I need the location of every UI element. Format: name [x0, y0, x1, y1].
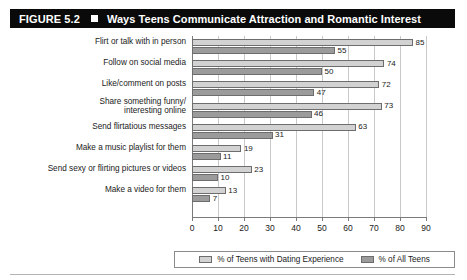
legend-item-all-teens: % of All Teens — [361, 255, 430, 264]
bar-value-label: 74 — [387, 60, 396, 68]
bar-row: Follow on social media7450 — [0, 58, 467, 79]
bar — [192, 153, 221, 160]
bar-chart: Flirt or talk with in person8555Follow o… — [0, 36, 467, 236]
legend-swatch-icon — [199, 256, 212, 263]
x-axis-tick — [192, 217, 193, 221]
category-label: Like/comment on posts — [6, 79, 186, 88]
x-axis-tick-label: 40 — [291, 223, 300, 233]
x-axis-tick — [244, 217, 245, 221]
x-axis-tick — [218, 217, 219, 221]
bar — [192, 174, 218, 181]
category-label: Send flirtatious messages — [6, 122, 186, 131]
bar-value-label: 73 — [384, 102, 393, 110]
x-axis-tick — [270, 217, 271, 221]
figure-title: Ways Teens Communicate Attraction and Ro… — [107, 13, 421, 25]
x-axis-tick — [426, 217, 427, 221]
x-axis-tick — [348, 217, 349, 221]
bar — [192, 145, 241, 152]
bar — [192, 89, 314, 96]
bar-row: Share something funny/ interesting onlin… — [0, 101, 467, 122]
legend-swatch-icon — [361, 256, 374, 263]
x-axis-tick-label: 30 — [265, 223, 274, 233]
filled-square-icon — [91, 15, 98, 22]
bar-row: Send sexy or flirting pictures or videos… — [0, 164, 467, 185]
bar-row: Make a music playlist for them1911 — [0, 143, 467, 164]
category-label: Make a video for them — [6, 185, 186, 194]
category-label: Follow on social media — [6, 58, 186, 67]
x-axis-tick — [374, 217, 375, 221]
bar-value-label: 19 — [244, 145, 253, 153]
bar — [192, 60, 384, 67]
bar-value-label: 72 — [382, 81, 391, 89]
category-label: Send sexy or flirting pictures or videos — [6, 164, 186, 173]
x-axis-tick-label: 60 — [343, 223, 352, 233]
x-axis-line — [192, 217, 426, 218]
bar — [192, 68, 322, 75]
x-axis-tick-label: 20 — [239, 223, 248, 233]
x-axis-tick-label: 50 — [317, 223, 326, 233]
bar — [192, 47, 335, 54]
figure-header-bar: FIGURE 5.2 Ways Teens Communicate Attrac… — [10, 9, 455, 28]
bar — [192, 187, 226, 194]
bar-row: Send flirtatious messages6331 — [0, 122, 467, 143]
bottom-rule — [10, 274, 455, 275]
category-label: Share something funny/ interesting onlin… — [6, 97, 186, 116]
category-label: Flirt or talk with in person — [6, 37, 186, 46]
x-axis-tick-label: 80 — [395, 223, 404, 233]
category-label: Make a music playlist for them — [6, 143, 186, 152]
bar — [192, 111, 312, 118]
chart-legend: % of Teens with Dating Experience % of A… — [174, 251, 455, 268]
figure-number: FIGURE 5.2 — [19, 13, 80, 25]
legend-item-dating-experience: % of Teens with Dating Experience — [199, 255, 343, 264]
bar-value-label: 47 — [317, 89, 326, 97]
bar — [192, 81, 379, 88]
bar-value-label: 13 — [228, 187, 237, 195]
bar-value-label: 50 — [325, 68, 334, 76]
bar-value-label: 10 — [221, 174, 230, 182]
x-axis-tick-label: 90 — [421, 223, 430, 233]
x-axis-tick-label: 10 — [213, 223, 222, 233]
bar-value-label: 23 — [254, 166, 263, 174]
x-axis-tick — [322, 217, 323, 221]
bar-row: Make a video for them137 — [0, 185, 467, 206]
bar-value-label: 85 — [416, 39, 425, 47]
bar-value-label: 11 — [223, 153, 231, 161]
bar-row: Flirt or talk with in person8555 — [0, 37, 467, 58]
legend-label: % of Teens with Dating Experience — [217, 255, 343, 264]
bar-value-label: 55 — [338, 47, 347, 55]
bar — [192, 195, 210, 202]
bar — [192, 124, 356, 131]
x-axis-tick — [296, 217, 297, 221]
x-axis-tick-label: 70 — [369, 223, 378, 233]
x-axis-tick-label: 0 — [190, 223, 195, 233]
bar-value-label: 63 — [358, 123, 367, 131]
bar-value-label: 31 — [275, 131, 284, 139]
bar — [192, 132, 273, 139]
bar — [192, 103, 382, 110]
legend-label: % of All Teens — [379, 255, 430, 264]
bar — [192, 39, 413, 46]
bar-value-label: 7 — [213, 195, 217, 203]
bar-value-label: 46 — [314, 110, 323, 118]
x-axis-tick — [400, 217, 401, 221]
